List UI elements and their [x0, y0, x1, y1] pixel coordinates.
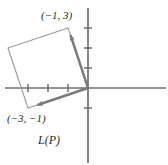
top-vertex-label: (−1, 3)	[41, 10, 72, 21]
figure-caption: L(P)	[38, 134, 60, 146]
vectors-group	[38, 35, 89, 105]
vector-to-bottom-vertex	[38, 88, 89, 105]
coordinate-plane-graphic	[0, 0, 168, 165]
vector-to-top-vertex	[71, 35, 89, 88]
linear-transformation-figure: (−1, 3) (−3, −1) L(P)	[0, 0, 168, 165]
axes-group	[5, 8, 166, 163]
bottom-vertex-label: (−3, −1)	[7, 113, 46, 124]
transformed-square-outline	[8, 28, 88, 108]
